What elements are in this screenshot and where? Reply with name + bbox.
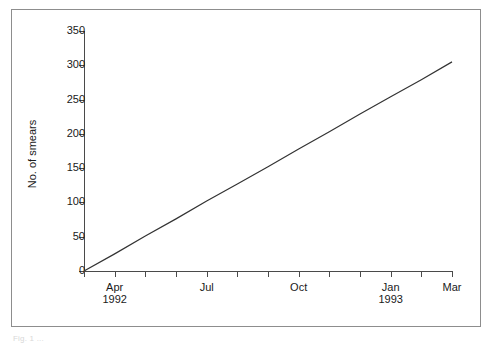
data-series-line [0, 0, 497, 345]
series-polyline [84, 62, 452, 271]
chart-plot-area: No. of smears 050100150200250300350 Apr … [0, 0, 497, 345]
figure-caption: Fig. 1 ... [13, 334, 44, 343]
